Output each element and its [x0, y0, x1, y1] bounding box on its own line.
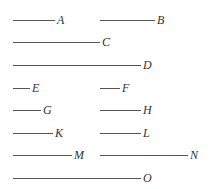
segment-o: [13, 178, 141, 179]
segment-b: [100, 20, 155, 21]
segment-g: [13, 110, 41, 111]
segment-d: [13, 65, 141, 66]
segment-label-h: H: [143, 104, 152, 116]
segment-label-o: O: [143, 172, 152, 184]
segment-e: [13, 88, 30, 89]
segment-label-f: F: [122, 82, 129, 94]
segment-diagram: ABCDEFGHKLMNO: [0, 0, 212, 189]
segment-label-l: L: [143, 127, 150, 139]
segment-label-b: B: [157, 14, 164, 26]
segment-label-m: M: [74, 149, 84, 161]
segment-label-a: A: [57, 14, 64, 26]
segment-h: [100, 110, 141, 111]
segment-n: [100, 155, 188, 156]
segment-label-g: G: [43, 104, 52, 116]
segment-label-c: C: [102, 36, 110, 48]
segment-label-n: N: [190, 149, 198, 161]
segment-l: [100, 133, 141, 134]
segment-f: [100, 88, 120, 89]
segment-k: [13, 133, 53, 134]
segment-label-k: K: [55, 127, 63, 139]
segment-label-e: E: [32, 82, 39, 94]
segment-c: [13, 42, 100, 43]
segment-m: [13, 155, 72, 156]
segment-a: [13, 20, 55, 21]
segment-label-d: D: [143, 59, 152, 71]
